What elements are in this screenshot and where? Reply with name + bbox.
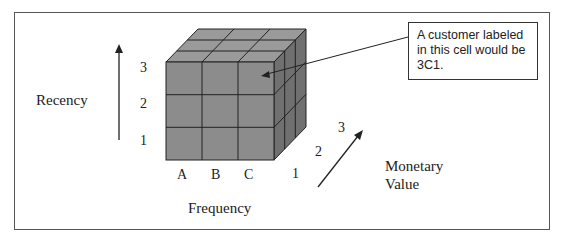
frequency-tick-a: A (177, 168, 187, 182)
frequency-tick-c: C (244, 168, 253, 182)
callout-text: A customer labeled in this cell would be… (417, 28, 525, 72)
frequency-tick-b: B (211, 168, 220, 182)
recency-tick-1: 1 (140, 134, 147, 148)
monetary-axis-title-line1: Monetary (385, 159, 443, 174)
recency-tick-2: 2 (140, 97, 147, 111)
monetary-axis-title-line2: Value (385, 177, 419, 192)
callout-box: A customer labeled in this cell would be… (408, 22, 538, 80)
frequency-axis-title: Frequency (188, 201, 251, 216)
recency-tick-3: 3 (140, 61, 147, 75)
monetary-tick-3: 3 (338, 121, 345, 135)
recency-axis-title: Recency (36, 93, 88, 108)
monetary-tick-2: 2 (315, 145, 322, 159)
monetary-arrow-icon (318, 130, 363, 187)
cube-front-face (166, 62, 274, 160)
recency-arrow-icon (115, 44, 123, 140)
monetary-tick-1: 1 (292, 167, 299, 181)
